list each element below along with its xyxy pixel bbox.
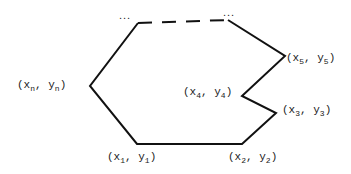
vertex-label-n: (xn, yn) <box>17 79 66 91</box>
polygon-dashed-gap <box>138 20 228 23</box>
vertex-label-3: (x3, y3) <box>282 104 331 116</box>
ellipsis-left: ... <box>119 10 131 20</box>
vertex-label-4: (x4, y4) <box>183 86 232 98</box>
vertex-label-2: (x2, y2) <box>228 151 277 163</box>
ellipsis-right: ... <box>223 7 235 17</box>
vertex-label-5: (x5, y5) <box>286 52 335 64</box>
vertex-label-1: (x1, y1) <box>107 151 156 163</box>
polygon-solid-path-left <box>90 20 285 144</box>
